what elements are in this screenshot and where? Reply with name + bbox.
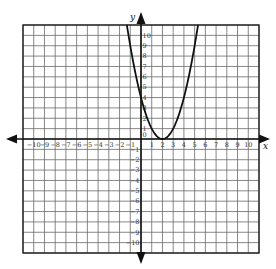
x-tick-label: −5: [83, 141, 93, 149]
y-tick-label: −7: [130, 208, 140, 216]
x-tick-label: 2: [160, 141, 164, 149]
y-tick-label: −9: [130, 229, 140, 237]
y-tick-label: −8: [130, 218, 140, 226]
x-tick-label: 6: [203, 141, 207, 149]
x-axis-label: x: [263, 141, 268, 151]
y-tick-label: 0: [143, 131, 147, 139]
x-tick-label: −8: [50, 141, 60, 149]
x-tick-label: 5: [193, 141, 197, 149]
y-tick-label: −1: [130, 146, 140, 154]
x-tick-label: −2: [115, 141, 125, 149]
y-tick-label: −4: [130, 177, 140, 185]
x-tick-label: 4: [182, 141, 186, 149]
x-tick-label: −6: [72, 141, 82, 149]
x-tick-label: −10: [27, 141, 41, 149]
y-tick-label: 7: [143, 63, 147, 71]
x-tick-label: 3: [171, 141, 175, 149]
y-tick-label: −2: [130, 156, 140, 164]
y-tick-label: −5: [130, 187, 140, 195]
x-tick-label: 7: [214, 141, 218, 149]
x-tick-label: 9: [235, 141, 239, 149]
y-tick-label: 4: [143, 94, 147, 102]
y-tick-label: 10: [143, 32, 151, 40]
y-axis-label: y: [129, 12, 136, 22]
y-tick-label: −10: [126, 239, 140, 247]
x-tick-label: −7: [61, 141, 71, 149]
y-tick-label: 9: [143, 42, 147, 50]
x-tick-label: −9: [40, 141, 50, 149]
x-tick-label: −3: [104, 141, 114, 149]
y-axis-up-arrow-icon: [137, 12, 146, 24]
y-tick-label: −3: [130, 166, 140, 174]
x-tick-label: 8: [225, 141, 229, 149]
x-tick-label: 10: [244, 141, 252, 149]
y-tick-label: 6: [143, 73, 147, 81]
y-axis-down-arrow-icon: [137, 252, 146, 264]
x-tick-label: −4: [93, 141, 103, 149]
coordinate-plane: −10−9−8−7−6−5−4−3−2−11234567891010987654…: [0, 0, 276, 269]
y-tick-label: 5: [143, 83, 147, 91]
x-axis-left-arrow-icon: [6, 135, 17, 144]
x-tick-label: 1: [150, 141, 154, 149]
y-tick-label: −6: [130, 197, 140, 205]
y-tick-label: 8: [143, 52, 147, 60]
